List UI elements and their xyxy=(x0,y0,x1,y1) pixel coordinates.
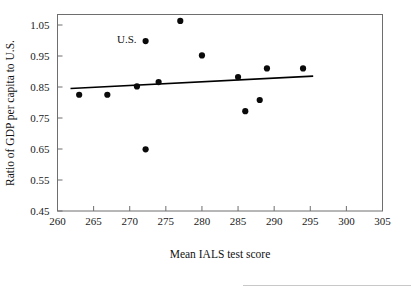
x-axis-title: Mean IALS test score xyxy=(170,248,271,260)
y-tick-label: 0.75 xyxy=(30,112,50,124)
data-point xyxy=(257,97,263,103)
x-tick-label: 260 xyxy=(49,215,66,227)
scatter-chart-figure: 260265270275280285290295300305 0.450.550… xyxy=(0,0,411,292)
data-point xyxy=(156,79,162,85)
chart-canvas: 260265270275280285290295300305 0.450.550… xyxy=(0,0,411,292)
data-point xyxy=(143,146,149,152)
data-point xyxy=(134,83,140,89)
data-point xyxy=(76,92,82,98)
x-tick-label: 300 xyxy=(338,215,355,227)
x-tick-label: 285 xyxy=(230,215,247,227)
y-axis-title: Ratio of GDP per capita to U.S. xyxy=(4,40,17,186)
annotation-group: U.S. xyxy=(117,33,137,45)
y-tick-label: 0.45 xyxy=(30,205,50,217)
x-tick-label: 290 xyxy=(266,215,283,227)
x-tick-label: 265 xyxy=(85,215,102,227)
y-tick-label: 0.55 xyxy=(30,174,50,186)
data-point xyxy=(264,65,270,71)
x-tick-label: 270 xyxy=(121,215,138,227)
data-point xyxy=(242,108,248,114)
x-tick-label: 295 xyxy=(302,215,319,227)
data-point xyxy=(300,65,306,71)
x-tick-label: 305 xyxy=(374,215,391,227)
data-point xyxy=(177,18,183,24)
y-tick-label: 0.95 xyxy=(30,50,50,62)
data-point xyxy=(143,38,149,44)
y-tick-label: 0.65 xyxy=(30,143,50,155)
us-point-annotation: U.S. xyxy=(117,33,137,45)
y-tick-label: 1.05 xyxy=(30,19,50,31)
x-tick-label: 275 xyxy=(158,215,175,227)
data-point xyxy=(235,74,241,80)
y-tick-label: 0.85 xyxy=(30,81,50,93)
data-point xyxy=(199,52,205,58)
data-point xyxy=(104,92,110,98)
x-tick-label: 280 xyxy=(194,215,211,227)
